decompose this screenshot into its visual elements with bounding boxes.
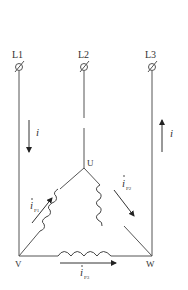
- line-current-label-left: i: [36, 126, 39, 138]
- svg-text:P1: P1: [34, 208, 40, 213]
- node-label-v: V: [15, 259, 22, 269]
- svg-text:P2: P2: [126, 186, 132, 191]
- phase-current-label-p3: i P3: [80, 265, 90, 280]
- terminal-icon-l3: [148, 61, 157, 72]
- terminal-icon-l1: [15, 61, 24, 72]
- svg-text:P3: P3: [84, 275, 90, 280]
- delta-circuit-diagram: L1 L2 L3 i i U V W: [0, 0, 188, 290]
- terminal-label-l1: L1: [12, 49, 23, 60]
- svg-text:i: i: [122, 177, 125, 189]
- phase-current-label-p1: i P1: [30, 198, 40, 213]
- svg-text:i: i: [80, 266, 83, 278]
- coil-branch-u-w: [84, 168, 152, 256]
- terminal-icon-l2: [80, 61, 89, 72]
- phase-current-label-p2: i P2: [122, 175, 132, 191]
- svg-text:i: i: [30, 199, 33, 211]
- node-label-u: U: [87, 158, 94, 168]
- phase-current-arrow-p2: [114, 190, 134, 216]
- node-label-w: W: [146, 259, 155, 269]
- coil-branch-v-w: [19, 252, 152, 257]
- line-current-label-right: i: [170, 127, 173, 139]
- terminal-label-l3: L3: [145, 49, 156, 60]
- terminal-label-l2: L2: [78, 49, 89, 60]
- coil-branch-v-u: [19, 168, 84, 256]
